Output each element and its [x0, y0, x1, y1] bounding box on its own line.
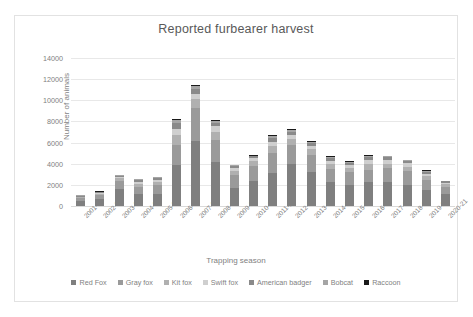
legend-swatch-icon	[249, 280, 254, 285]
x-label-slot: 2008-09	[205, 208, 224, 254]
x-label-slot: 2004-05	[129, 208, 148, 254]
x-label-slot: 2018-19	[397, 208, 416, 254]
y-axis-tick-label: 0	[59, 202, 63, 211]
y-axis-tick-label: 12000	[43, 75, 63, 84]
bar-segment[interactable]	[76, 201, 85, 206]
bar-segment[interactable]	[211, 140, 220, 162]
legend-swatch-icon	[323, 280, 328, 285]
y-axis-tick-label: 2000	[47, 180, 63, 189]
bar-slot[interactable]	[90, 58, 109, 206]
legend-swatch-icon	[71, 280, 76, 285]
y-axis-tick-labels: 14000120001000080006000400020000	[15, 58, 69, 206]
bar-segment[interactable]	[191, 108, 200, 141]
bar-slot[interactable]	[282, 58, 301, 206]
bar-slot[interactable]	[321, 58, 340, 206]
x-axis-tick-labels: 2001-022002-32003-042004-052005-062006-0…	[71, 208, 455, 254]
bar-slot[interactable]	[167, 58, 186, 206]
x-label-slot: 2010-11	[244, 208, 263, 254]
bar-segment[interactable]	[153, 185, 162, 193]
chart-legend: Red FoxGray foxKit foxSwift foxAmerican …	[15, 278, 457, 287]
bar-segment[interactable]	[345, 172, 354, 185]
stacked-bar[interactable]	[172, 119, 181, 206]
bar-segment[interactable]	[403, 171, 412, 185]
bar-slot[interactable]	[186, 58, 205, 206]
x-label-slot: 2011-12	[263, 208, 282, 254]
bar-segment[interactable]	[191, 141, 200, 206]
bar-segment[interactable]	[307, 155, 316, 172]
bar-segment[interactable]	[383, 168, 392, 181]
chart-title: Reported furbearer harvest	[15, 22, 457, 36]
bar-segment[interactable]	[441, 187, 450, 194]
bar-segment[interactable]	[172, 135, 181, 145]
bar-slot[interactable]	[263, 58, 282, 206]
stacked-bar[interactable]	[287, 129, 296, 206]
legend-label: Bobcat	[331, 278, 353, 287]
bar-slot[interactable]	[397, 58, 416, 206]
x-label-slot: 2002-3	[90, 208, 109, 254]
legend-swatch-icon	[203, 280, 208, 285]
legend-label: Gray fox	[126, 278, 153, 287]
legend-label: Kit fox	[172, 278, 192, 287]
legend-swatch-icon	[118, 280, 123, 285]
bar-segment[interactable]	[422, 180, 431, 190]
bar-segment[interactable]	[172, 145, 181, 165]
bar-slot[interactable]	[436, 58, 455, 206]
bar-slot[interactable]	[129, 58, 148, 206]
legend-label: American badger	[257, 278, 312, 287]
bar-segment[interactable]	[364, 170, 373, 183]
x-label-slot: 2014-15	[321, 208, 340, 254]
x-label-slot: 2003-04	[109, 208, 128, 254]
legend-item[interactable]: Gray fox	[118, 278, 153, 287]
x-label-slot: 2005-06	[148, 208, 167, 254]
legend-item[interactable]: Bobcat	[323, 278, 353, 287]
legend-item[interactable]: American badger	[249, 278, 312, 287]
x-axis-title: Trapping season	[15, 256, 457, 265]
bar-slot[interactable]	[301, 58, 320, 206]
bar-segment[interactable]	[287, 145, 296, 164]
bar-slot[interactable]	[417, 58, 436, 206]
plot-area	[71, 58, 455, 206]
stacked-bar[interactable]	[268, 135, 277, 206]
bar-slot[interactable]	[378, 58, 397, 206]
x-label-slot: 2019-20	[417, 208, 436, 254]
x-label-slot: 2006-07	[167, 208, 186, 254]
x-label-slot: 2013-14	[301, 208, 320, 254]
bar-slot[interactable]	[205, 58, 224, 206]
stacked-bar[interactable]	[307, 141, 316, 206]
bar-segment[interactable]	[211, 132, 220, 140]
x-label-slot: 2012-13	[282, 208, 301, 254]
bar-slot[interactable]	[109, 58, 128, 206]
bar-segment[interactable]	[268, 153, 277, 173]
legend-swatch-icon	[164, 280, 169, 285]
y-axis-tick-label: 8000	[47, 117, 63, 126]
bar-segment[interactable]	[230, 175, 239, 188]
bar-segment[interactable]	[191, 99, 200, 109]
stacked-bar[interactable]	[211, 120, 220, 206]
legend-swatch-icon	[364, 280, 369, 285]
bar-slot[interactable]	[359, 58, 378, 206]
bar-segment[interactable]	[134, 187, 143, 194]
x-label-slot: 2020-21	[436, 208, 455, 254]
bar-segment[interactable]	[326, 169, 335, 182]
bar-segment[interactable]	[268, 146, 277, 153]
bar-slot[interactable]	[340, 58, 359, 206]
legend-item[interactable]: Kit fox	[164, 278, 192, 287]
y-axis-tick-label: 6000	[47, 138, 63, 147]
y-axis-tick-label: 10000	[43, 96, 63, 105]
stacked-bar[interactable]	[76, 195, 85, 206]
bar-segment[interactable]	[115, 181, 124, 189]
bar-slot[interactable]	[244, 58, 263, 206]
legend-label: Swift fox	[211, 278, 238, 287]
bar-slot[interactable]	[71, 58, 90, 206]
stacked-bar[interactable]	[191, 85, 200, 207]
bar-slot[interactable]	[148, 58, 167, 206]
x-label-slot: 2017-18	[378, 208, 397, 254]
legend-label: Raccoon	[372, 278, 400, 287]
legend-item[interactable]: Raccoon	[364, 278, 400, 287]
bar-segment[interactable]	[249, 166, 258, 180]
bar-slot[interactable]	[225, 58, 244, 206]
legend-item[interactable]: Red Fox	[71, 278, 106, 287]
legend-item[interactable]: Swift fox	[203, 278, 238, 287]
x-label-slot: 2009-10	[225, 208, 244, 254]
bar-group	[71, 58, 455, 206]
